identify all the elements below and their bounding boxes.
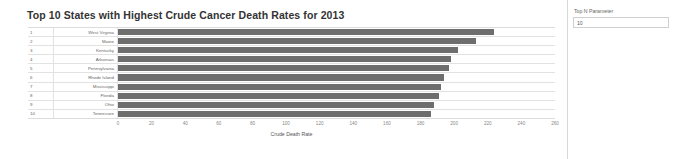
rank-cell: 7 bbox=[28, 83, 54, 91]
bar-cell bbox=[118, 46, 555, 54]
bar-cell bbox=[118, 37, 555, 45]
bar-mark[interactable] bbox=[118, 65, 449, 71]
table-row[interactable]: 7Mississippi bbox=[28, 83, 555, 92]
rank-cell: 9 bbox=[28, 101, 54, 109]
bar-mark[interactable] bbox=[118, 93, 439, 99]
x-tick-label: 80 bbox=[250, 121, 255, 126]
rank-cell: 2 bbox=[28, 37, 54, 45]
bar-cell bbox=[118, 92, 555, 100]
bar-cell bbox=[118, 110, 555, 118]
x-axis: Crude Death Rate 02040608010012014016018… bbox=[28, 118, 555, 148]
x-axis-line bbox=[28, 118, 555, 119]
rank-cell: 10 bbox=[28, 110, 54, 118]
table-row[interactable]: 8Florida bbox=[28, 92, 555, 101]
x-axis-label: Crude Death Rate bbox=[28, 131, 555, 137]
top-n-parameter-input[interactable] bbox=[573, 17, 669, 28]
dashboard-screenshot: Top 10 States with Highest Crude Cancer … bbox=[0, 0, 678, 159]
bar-mark[interactable] bbox=[118, 111, 431, 117]
x-tick-label: 40 bbox=[183, 121, 188, 126]
state-name-cell: Tennessee bbox=[54, 110, 118, 118]
table-row[interactable]: 6Rhode Island bbox=[28, 73, 555, 82]
parameter-pane: Top N Parameter bbox=[568, 0, 678, 159]
rank-cell: 4 bbox=[28, 55, 54, 63]
table-row[interactable]: 2Maine bbox=[28, 37, 555, 46]
x-tick-label: 220 bbox=[484, 121, 492, 126]
bar-cell bbox=[118, 83, 555, 91]
x-tick-label: 60 bbox=[216, 121, 221, 126]
state-name-cell: Arkansas bbox=[54, 55, 118, 63]
bar-cell bbox=[118, 73, 555, 81]
x-tick-label: 140 bbox=[349, 121, 357, 126]
state-name-cell: Pennsylvania bbox=[54, 64, 118, 72]
worksheet-pane: Top 10 States with Highest Crude Cancer … bbox=[0, 0, 567, 159]
bar-mark[interactable] bbox=[118, 38, 476, 44]
rank-cell: 8 bbox=[28, 92, 54, 100]
parameter-label: Top N Parameter bbox=[574, 8, 613, 14]
bar-mark[interactable] bbox=[118, 74, 444, 80]
rank-cell: 6 bbox=[28, 73, 54, 81]
bar-rows: 1West Virginia2Maine3Kentucky4Arkansas5P… bbox=[28, 27, 555, 119]
bar-cell bbox=[118, 101, 555, 109]
bar-mark[interactable] bbox=[118, 29, 494, 35]
bar-mark[interactable] bbox=[118, 102, 434, 108]
table-row[interactable]: 9Ohio bbox=[28, 101, 555, 110]
chart-plot-area: 1West Virginia2Maine3Kentucky4Arkansas5P… bbox=[28, 27, 555, 118]
table-row[interactable]: 5Pennsylvania bbox=[28, 64, 555, 73]
table-row[interactable]: 3Kentucky bbox=[28, 46, 555, 55]
page-title: Top 10 States with Highest Crude Cancer … bbox=[27, 9, 344, 21]
state-name-cell: Kentucky bbox=[54, 46, 118, 54]
x-tick-label: 260 bbox=[551, 121, 559, 126]
state-name-cell: Ohio bbox=[54, 101, 118, 109]
x-tick-label: 160 bbox=[383, 121, 391, 126]
table-row[interactable]: 4Arkansas bbox=[28, 55, 555, 64]
x-tick-label: 100 bbox=[282, 121, 290, 126]
state-name-cell: Florida bbox=[54, 92, 118, 100]
x-tick-label: 120 bbox=[316, 121, 324, 126]
state-name-cell: Rhode Island bbox=[54, 73, 118, 81]
bar-mark[interactable] bbox=[118, 56, 451, 62]
state-name-cell: Mississippi bbox=[54, 83, 118, 91]
bar-cell bbox=[118, 28, 555, 36]
x-tick-label: 240 bbox=[518, 121, 526, 126]
x-tick-label: 0 bbox=[117, 121, 120, 126]
rank-cell: 3 bbox=[28, 46, 54, 54]
rank-cell: 1 bbox=[28, 28, 54, 36]
x-tick-label: 200 bbox=[450, 121, 458, 126]
bar-cell bbox=[118, 55, 555, 63]
bar-cell bbox=[118, 64, 555, 72]
x-tick-label: 180 bbox=[417, 121, 425, 126]
bar-mark[interactable] bbox=[118, 47, 458, 53]
state-name-cell: West Virginia bbox=[54, 28, 118, 36]
table-row[interactable]: 1West Virginia bbox=[28, 28, 555, 37]
bar-mark[interactable] bbox=[118, 84, 441, 90]
state-name-cell: Maine bbox=[54, 37, 118, 45]
x-tick-label: 20 bbox=[149, 121, 154, 126]
rank-cell: 5 bbox=[28, 64, 54, 72]
